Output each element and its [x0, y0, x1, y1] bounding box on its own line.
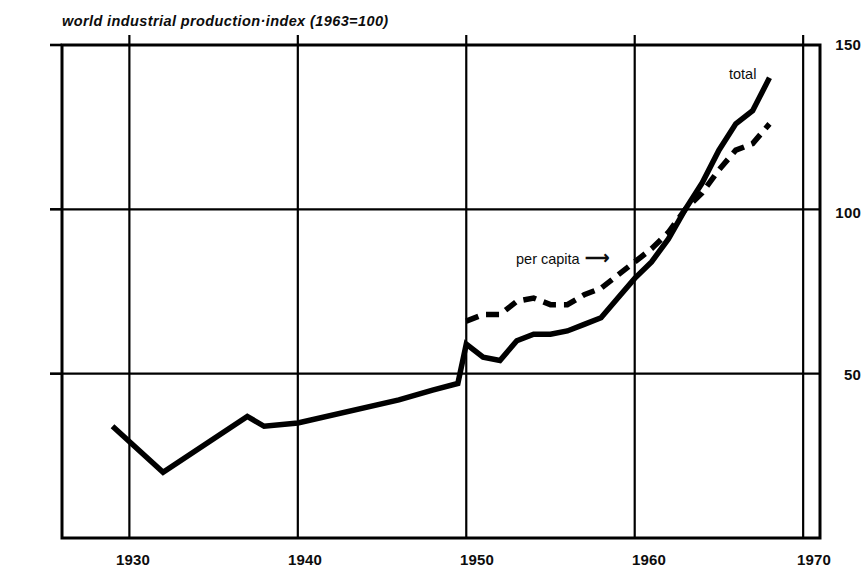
per-capita-text: per capita [516, 251, 580, 267]
series-line-total [113, 78, 770, 472]
arrow-right-icon: ⟶ [580, 249, 609, 268]
series-lines [113, 78, 770, 472]
plot-area [0, 0, 861, 587]
chart-figure: world industrial production·index (1963=… [0, 0, 861, 587]
x-tick-label-1960: 1960 [614, 551, 684, 568]
x-tick-label-1940: 1940 [270, 551, 340, 568]
chart-title: world industrial production·index (1963=… [62, 13, 389, 29]
series-label-total: total [729, 66, 756, 82]
x-tick-label-1930: 1930 [98, 551, 168, 568]
axis-ticks [50, 35, 803, 538]
x-tick-label-1970: 1970 [779, 551, 849, 568]
y-tick-label-50: 50 [813, 366, 861, 383]
series-line-per-capita [466, 124, 769, 321]
x-tick-label-1950: 1950 [442, 551, 512, 568]
y-tick-label-100: 100 [813, 204, 861, 221]
series-label-per-capita: per capita⟶ [516, 248, 609, 269]
y-tick-label-150: 150 [813, 36, 861, 53]
